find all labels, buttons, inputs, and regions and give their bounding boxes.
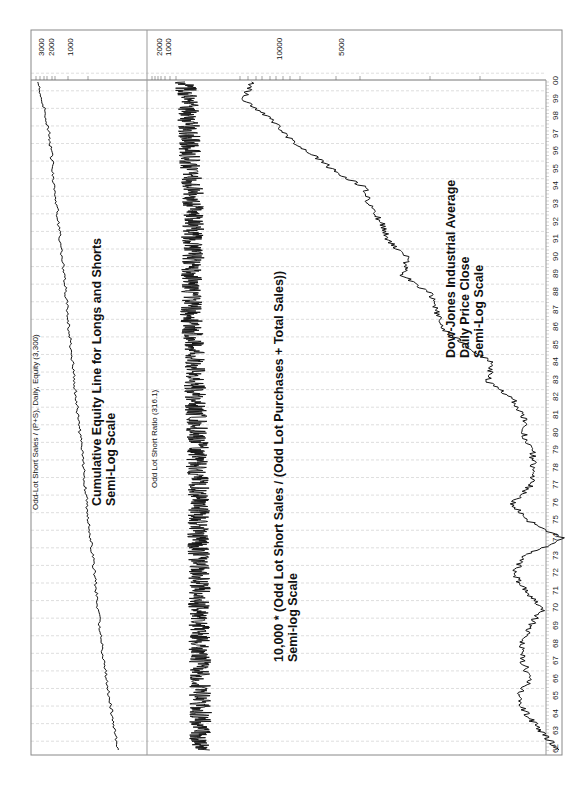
odd-lot-ratio-line (175, 82, 212, 750)
year-label: 00 (551, 74, 560, 88)
year-label: 84 (551, 355, 560, 369)
year-label: 85 (551, 337, 560, 351)
year-label: 63 (551, 724, 560, 738)
year-label: 92 (551, 214, 560, 228)
dow-annotation-2: Daily Price Close (458, 257, 472, 358)
year-label: 99 (551, 91, 560, 105)
year-label: 78 (551, 460, 560, 474)
chart-canvas (0, 0, 581, 786)
tick-3000: 3000 (37, 38, 46, 56)
year-label: 91 (551, 232, 560, 246)
tick-10000: 10000 (275, 38, 284, 60)
year-label: 82 (551, 390, 560, 404)
year-label: 71 (551, 583, 560, 597)
year-label: 69 (551, 618, 560, 632)
equity-annotation-1: Cumulative Equity Line for Longs and Sho… (90, 238, 104, 506)
year-label: 65 (551, 689, 560, 703)
oddlot-annotation-2: Semi-log Scale (286, 573, 300, 662)
equity-annotation-2: Semi-Log Scale (104, 413, 118, 506)
year-label: 83 (551, 372, 560, 386)
year-label: 74 (551, 531, 560, 545)
scale-ticks (36, 76, 480, 80)
year-label: 76 (551, 495, 560, 509)
year-label: 70 (551, 601, 560, 615)
tick-1000: 1000 (66, 38, 75, 56)
year-label: 96 (551, 144, 560, 158)
year-label: 90 (551, 249, 560, 263)
oddlot-annotation-1: 10,000 * (Odd Lot Short Sales / (Odd Lot… (272, 271, 286, 662)
year-label: 68 (551, 636, 560, 650)
year-label: 86 (551, 320, 560, 334)
dow-annotation-3: Semi-Log Scale (472, 265, 486, 358)
year-label: 64 (551, 706, 560, 720)
year-label: 79 (551, 443, 560, 457)
year-label: 73 (551, 548, 560, 562)
dow-annotation-1: Dow-Jones Industrial Average (444, 180, 458, 358)
year-label: 93 (551, 197, 560, 211)
tick-2000-b: 2000 (155, 38, 164, 56)
year-label: 75 (551, 513, 560, 527)
year-label: 88 (551, 284, 560, 298)
year-label: 97 (551, 126, 560, 140)
panel1-title: Odd-Lot Short Sales / (P+S), Daily, Equi… (31, 334, 40, 510)
year-label: 66 (551, 671, 560, 685)
year-label: 87 (551, 302, 560, 316)
year-label: 95 (551, 161, 560, 175)
year-label: 89 (551, 267, 560, 281)
tick-5000: 5000 (337, 38, 346, 56)
year-label: 80 (551, 425, 560, 439)
year-label: 67 (551, 654, 560, 668)
year-label: 94 (551, 179, 560, 193)
year-label: 72 (551, 566, 560, 580)
year-label: 77 (551, 478, 560, 492)
year-label: 62 (551, 742, 560, 756)
panel2-title: Odd Lot Short Ratio (316.1) (150, 390, 159, 488)
rotated-chart: 3000 2000 1000 2000 1000 10000 5000 Odd-… (0, 0, 581, 786)
year-label: 81 (551, 408, 560, 422)
tick-1000-b: 1000 (164, 38, 173, 56)
year-label: 98 (551, 109, 560, 123)
tick-2000: 2000 (47, 38, 56, 56)
